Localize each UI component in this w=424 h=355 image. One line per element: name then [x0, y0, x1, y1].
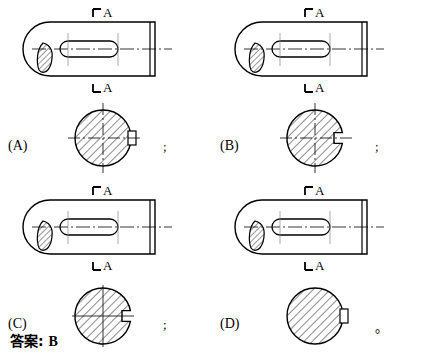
section-marker-top-a: A: [93, 5, 113, 20]
front-view-c: A A: [23, 183, 172, 273]
option-cell-c[interactable]: A A (C) ;: [0, 178, 212, 355]
drawing-option-c: A A: [0, 178, 212, 355]
drawing-option-b: A A: [212, 0, 424, 177]
section-letter-top-a: A: [103, 5, 113, 20]
section-marker-bottom-d: A: [305, 258, 325, 273]
front-view-b: A A: [235, 5, 384, 95]
option-separator-d: 。: [375, 317, 388, 336]
section-letter-top-b: A: [315, 5, 325, 20]
answer-value: B: [48, 334, 57, 349]
question-page: A A (A) ;: [0, 0, 424, 355]
option-label-a: (A): [8, 138, 27, 154]
section-marker-bottom-a: A: [93, 80, 113, 95]
section-letter-bottom-d: A: [315, 258, 325, 273]
section-marker-bottom-c: A: [93, 258, 113, 273]
section-view-d: [287, 288, 348, 344]
option-cell-d[interactable]: A A (D) 。: [212, 178, 424, 355]
front-view-d: A A: [235, 183, 384, 273]
section-marker-top-d: A: [305, 183, 325, 198]
section-letter-bottom-a: A: [103, 80, 113, 95]
option-separator-a: ;: [163, 139, 167, 155]
section-marker-top-b: A: [305, 5, 325, 20]
section-view-b: [280, 103, 354, 173]
front-view-a: A A: [23, 5, 172, 95]
option-cell-a[interactable]: A A (A) ;: [0, 0, 212, 177]
option-separator-c: ;: [163, 317, 167, 333]
option-label-b: (B): [220, 138, 239, 154]
section-marker-top-c: A: [93, 183, 113, 198]
section-letter-bottom-c: A: [103, 258, 113, 273]
section-view-a: [68, 103, 142, 173]
section-view-c: [72, 285, 134, 347]
drawing-option-d: A A: [212, 178, 424, 355]
option-separator-b: ;: [375, 139, 379, 155]
drawing-option-a: A A: [0, 0, 212, 177]
option-label-d: (D): [220, 316, 239, 332]
keyway-outside-rect-d: [340, 309, 348, 323]
section-letter-top-c: A: [103, 183, 113, 198]
answer-line: 答案: B: [10, 330, 58, 350]
section-letter-bottom-b: A: [315, 80, 325, 95]
section-marker-bottom-b: A: [305, 80, 325, 95]
section-letter-top-d: A: [315, 183, 325, 198]
answer-prefix-label: 答案:: [10, 333, 44, 349]
option-cell-b[interactable]: A A (B) ;: [212, 0, 424, 177]
